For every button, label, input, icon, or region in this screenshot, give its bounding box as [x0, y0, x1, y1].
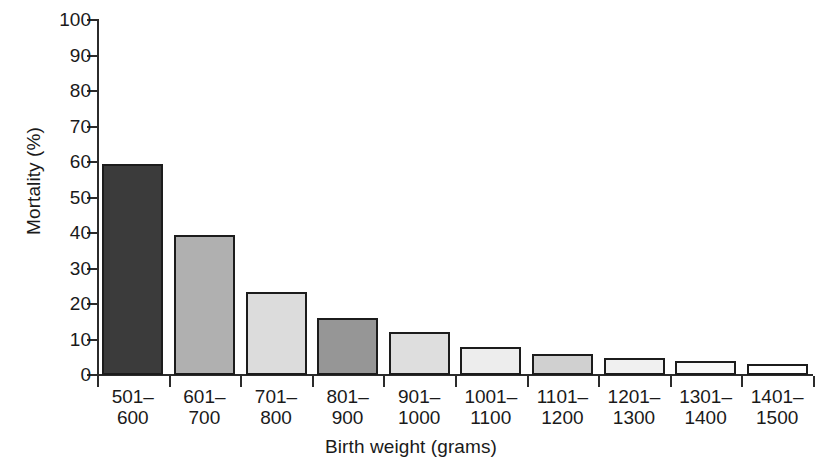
y-tick-label: 60 [43, 151, 91, 173]
x-tick-label-line: 1401– [741, 386, 813, 407]
x-tick-label-line: 800 [240, 407, 312, 428]
x-tick-label: 501–600 [97, 386, 169, 428]
x-tick-label: 1101–1200 [527, 386, 599, 428]
x-axis-title: Birth weight (grams) [0, 436, 822, 458]
y-tick-label: 20 [43, 293, 91, 315]
bar [246, 292, 307, 375]
bar-series [97, 20, 813, 375]
y-axis-title: Mortality (%) [23, 61, 45, 301]
x-tick-label: 801–900 [312, 386, 384, 428]
x-tick-label-line: 600 [97, 407, 169, 428]
x-tick-label: 701–800 [240, 386, 312, 428]
y-tick-label: 80 [43, 80, 91, 102]
x-tick-label-line: 700 [169, 407, 241, 428]
x-tick-label-line: 1400 [670, 407, 742, 428]
x-tick-label-line: 1500 [741, 407, 813, 428]
x-tick-label: 601–700 [169, 386, 241, 428]
x-tick-label-line: 900 [312, 407, 384, 428]
y-tick-label: 40 [43, 222, 91, 244]
x-tick-label: 1001–1100 [455, 386, 527, 428]
x-tick-mark [813, 376, 815, 387]
x-tick-label-line: 1101– [527, 386, 599, 407]
bar [460, 347, 521, 375]
y-tick-label: 90 [43, 45, 91, 67]
bar [532, 354, 593, 375]
x-tick-label-line: 501– [97, 386, 169, 407]
bar-chart-figure: Mortality (%) 0102030405060708090100 501… [0, 0, 822, 461]
y-tick-label: 10 [43, 329, 91, 351]
x-tick-label: 901–1000 [383, 386, 455, 428]
bar [389, 332, 450, 375]
bar [174, 235, 235, 375]
x-tick-label: 1201–1300 [598, 386, 670, 428]
x-tick-label-line: 1200 [527, 407, 599, 428]
bar [102, 164, 163, 375]
x-tick-label-line: 1301– [670, 386, 742, 407]
x-tick-label-line: 801– [312, 386, 384, 407]
y-tick-label: 0 [43, 364, 91, 386]
bar [747, 364, 808, 375]
x-tick-label-line: 901– [383, 386, 455, 407]
x-tick-label-line: 1300 [598, 407, 670, 428]
x-tick-label: 1401–1500 [741, 386, 813, 428]
x-tick-label-line: 1001– [455, 386, 527, 407]
y-tick-label: 100 [43, 9, 91, 31]
x-tick-label-line: 701– [240, 386, 312, 407]
bar [675, 361, 736, 375]
y-tick-label: 30 [43, 258, 91, 280]
x-tick-label-line: 1201– [598, 386, 670, 407]
x-tick-label-line: 1000 [383, 407, 455, 428]
bar [604, 358, 665, 375]
y-tick-label: 50 [43, 187, 91, 209]
x-tick-label-line: 1100 [455, 407, 527, 428]
plot-area: 0102030405060708090100 [97, 20, 813, 375]
x-tick-label-line: 601– [169, 386, 241, 407]
bar [317, 318, 378, 376]
y-tick-label: 70 [43, 116, 91, 138]
x-tick-label: 1301–1400 [670, 386, 742, 428]
